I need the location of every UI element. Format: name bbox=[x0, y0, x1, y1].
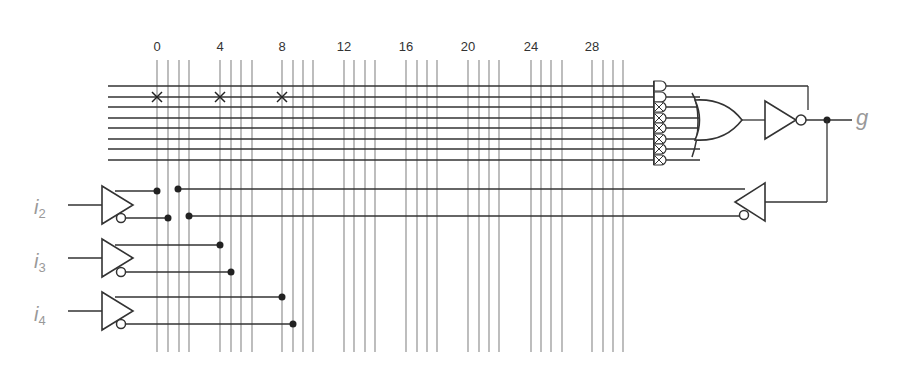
connection-dot bbox=[228, 269, 235, 276]
connection-dot bbox=[154, 188, 161, 195]
or-gate-icon bbox=[695, 100, 742, 140]
and-gate-icon bbox=[654, 81, 666, 91]
column-label: 0 bbox=[153, 39, 160, 54]
column-label: 20 bbox=[461, 39, 475, 54]
input-label-i3: i3 bbox=[34, 250, 46, 275]
column-label: 12 bbox=[337, 39, 351, 54]
pal-diagram: 0481216202428 i2 i3 i4 g bbox=[0, 0, 914, 367]
input-label-i4: i4 bbox=[34, 303, 46, 328]
circuit-drawing bbox=[0, 0, 914, 367]
complement-bubble-icon bbox=[117, 320, 126, 329]
and-array-edge bbox=[653, 81, 655, 165]
connection-dot bbox=[175, 186, 182, 193]
complement-bubble-icon bbox=[117, 214, 126, 223]
column-label: 16 bbox=[399, 39, 413, 54]
connection-dot bbox=[217, 242, 224, 249]
input-label-i2: i2 bbox=[34, 196, 46, 221]
output-label-g: g bbox=[856, 105, 868, 131]
connection-dot bbox=[165, 215, 172, 222]
feedback-bubble-icon bbox=[740, 211, 749, 220]
inverter-bubble-icon bbox=[796, 115, 806, 125]
connection-dot bbox=[279, 294, 286, 301]
complement-bubble-icon bbox=[117, 268, 126, 277]
column-label: 4 bbox=[216, 39, 223, 54]
and-gate-icon bbox=[654, 92, 666, 102]
column-label: 28 bbox=[585, 39, 599, 54]
connection-dot bbox=[186, 213, 193, 220]
inverter-buffer-icon bbox=[765, 101, 796, 139]
column-label: 8 bbox=[278, 39, 285, 54]
connection-dot bbox=[290, 321, 297, 328]
column-label: 24 bbox=[524, 39, 538, 54]
